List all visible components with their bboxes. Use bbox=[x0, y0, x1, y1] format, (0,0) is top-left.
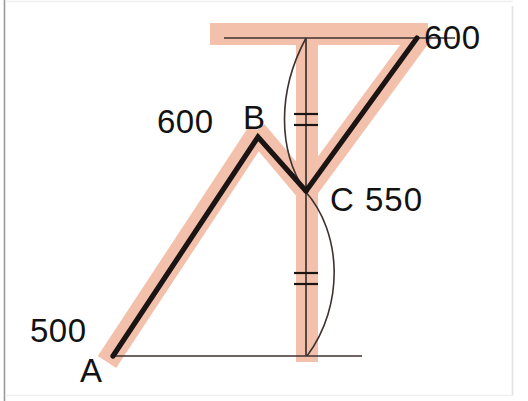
label-point-c-bearing-550: C 550 bbox=[330, 183, 423, 216]
label-point-a: A bbox=[80, 354, 103, 387]
traverse-c-to-topright bbox=[306, 38, 417, 191]
figure-container: 600 B 600 C 550 500 A bbox=[0, 0, 528, 401]
label-point-b: B bbox=[243, 101, 266, 134]
label-bearing-600-left: 600 bbox=[157, 105, 214, 138]
label-bearing-600-topright: 600 bbox=[424, 21, 481, 54]
label-bearing-500-bottomleft: 500 bbox=[30, 314, 87, 347]
